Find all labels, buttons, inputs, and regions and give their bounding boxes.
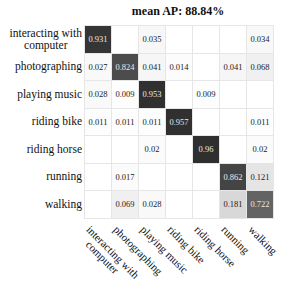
matrix-cell: 0.02 (247, 136, 274, 164)
matrix-cell: 0.035 (139, 26, 166, 54)
matrix-cell (112, 26, 139, 54)
matrix-cell (220, 81, 247, 109)
chart-title: mean AP: 88.84% (84, 4, 272, 19)
matrix-cell: 0.722 (247, 191, 274, 219)
matrix-cell: 0.011 (85, 109, 112, 137)
matrix-cell: 0.02 (139, 136, 166, 164)
matrix-cell (193, 26, 220, 54)
row-label: riding bike (32, 115, 82, 127)
matrix-cell (85, 191, 112, 219)
matrix-cell: 0.121 (247, 164, 274, 192)
matrix-cell: 0.953 (139, 81, 166, 109)
matrix-cell: 0.034 (247, 26, 274, 54)
matrix-cell: 0.069 (112, 191, 139, 219)
matrix-cell: 0.011 (139, 109, 166, 137)
matrix-cell: 0.181 (220, 191, 247, 219)
matrix-cell: 0.017 (112, 164, 139, 192)
column-label: interacting withcomputer (76, 224, 141, 285)
matrix-cell (247, 81, 274, 109)
matrix-cell: 0.011 (247, 109, 274, 137)
row-label: running (46, 170, 82, 182)
matrix-cell: 0.957 (166, 109, 193, 137)
confusion-matrix-grid: 0.9310.0350.0340.0270.8240.0410.0140.041… (84, 25, 274, 219)
matrix-cell (166, 136, 193, 164)
matrix-cell (85, 164, 112, 192)
matrix-cell (166, 81, 193, 109)
matrix-cell (193, 191, 220, 219)
matrix-cell (220, 109, 247, 137)
matrix-cell: 0.068 (247, 54, 274, 82)
matrix-cell: 0.027 (85, 54, 112, 82)
matrix-cell (139, 164, 166, 192)
row-label: photographing (15, 60, 82, 72)
matrix-cell: 0.028 (85, 81, 112, 109)
matrix-cell: 0.96 (193, 136, 220, 164)
row-label: riding horse (27, 143, 82, 155)
matrix-cell (193, 54, 220, 82)
row-label: playing music (17, 88, 82, 100)
matrix-cell: 0.931 (85, 26, 112, 54)
matrix-cell (166, 191, 193, 219)
matrix-cell (220, 26, 247, 54)
row-label: interacting withcomputer (10, 27, 83, 51)
matrix-cell (112, 136, 139, 164)
matrix-cell: 0.014 (166, 54, 193, 82)
column-label: walking (246, 224, 279, 257)
matrix-cell: 0.009 (193, 81, 220, 109)
matrix-cell: 0.041 (139, 54, 166, 82)
matrix-cell (166, 26, 193, 54)
matrix-cell: 0.028 (139, 191, 166, 219)
matrix-cell: 0.041 (220, 54, 247, 82)
matrix-cell (193, 109, 220, 137)
matrix-cell (193, 164, 220, 192)
matrix-cell: 0.824 (112, 54, 139, 82)
matrix-cell (166, 164, 193, 192)
matrix-cell (220, 136, 247, 164)
matrix-cell: 0.011 (112, 109, 139, 137)
row-label: walking (45, 198, 82, 210)
matrix-cell: 0.862 (220, 164, 247, 192)
matrix-cell (85, 136, 112, 164)
matrix-cell: 0.009 (112, 81, 139, 109)
